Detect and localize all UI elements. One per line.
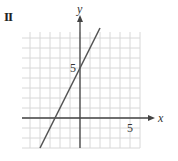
x-tick-label: 5 [127,121,133,135]
y-axis-arrow-icon [77,15,83,22]
y-axis-label: y [76,2,83,16]
y-tick-label: 5 [70,61,76,75]
x-axis-arrow-icon [148,115,155,121]
graph: xy55 [0,0,178,161]
x-axis-label: x [157,111,164,125]
